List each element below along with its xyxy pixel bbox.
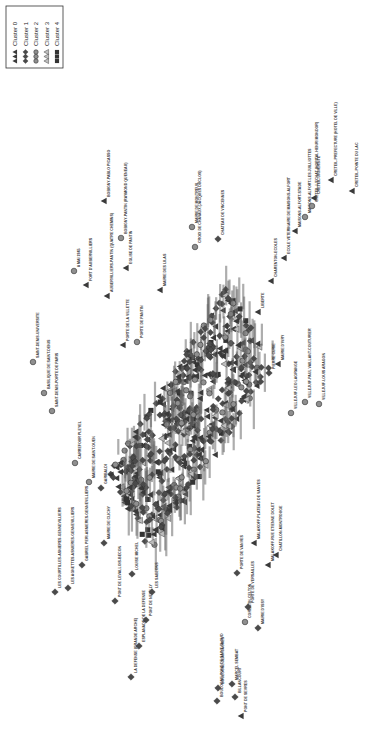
point-label: BOBIGNY-PANTIN (RAYMOND QUENEAU) xyxy=(124,162,128,234)
data-point: MAIRIE D'IVRY xyxy=(275,334,285,367)
circle-icon xyxy=(113,462,118,467)
triangle-icon xyxy=(265,562,271,569)
circle-icon xyxy=(189,224,195,230)
circle-icon xyxy=(49,408,55,414)
point-label: CHATEAU DE VINCENNES xyxy=(221,189,225,235)
triangle-icon xyxy=(251,540,257,547)
triangle-icon xyxy=(104,293,110,300)
circle-icon xyxy=(223,335,228,340)
point-label: CHARENTON-ECOLES xyxy=(274,238,278,277)
triangle-icon xyxy=(268,278,274,285)
circle-icon xyxy=(239,385,244,390)
point-label: PONT DE SEVRES xyxy=(244,680,248,712)
point-label: CROIX DE CHAVAUX (JACQUES DUCLOS) xyxy=(198,170,202,243)
triangle-icon xyxy=(115,484,121,490)
data-point: LES AGNETTES-ASNIERES-GENNEVILLIERS xyxy=(65,506,75,591)
data-point: MAIRIE DE SAINT-OUEN xyxy=(86,436,96,485)
diamond-icon xyxy=(98,485,105,492)
diamond-icon xyxy=(101,540,108,547)
data-point: MALAKOFF-RUE ETIENNE DOLET xyxy=(265,502,275,569)
point-label: CRETEIL-POINTE DU LAC xyxy=(355,142,359,187)
circle-icon xyxy=(30,359,36,365)
data-point: LOUISE MICHEL xyxy=(129,541,139,577)
data-point: CHARENTON-ECOLES xyxy=(268,238,278,285)
point-label: EGLISE DE PANTIN xyxy=(129,230,133,264)
diamond-icon xyxy=(229,681,236,688)
data-point: CRETEIL-POINTE DU LAC xyxy=(349,142,359,194)
triangle-icon xyxy=(328,177,334,184)
square-icon xyxy=(237,306,242,311)
diamond-icon xyxy=(214,698,221,705)
point-label: CARREFOUR PLEYEL xyxy=(78,420,82,459)
circle-icon xyxy=(34,59,38,63)
square-icon xyxy=(140,532,145,537)
square-icon xyxy=(55,59,59,63)
point-label: CHATILLON-MONTROUGE xyxy=(279,505,283,551)
point-label: LES COURTILLES-ASNIERES-GENNEVILLIERS xyxy=(58,507,62,588)
circle-icon xyxy=(124,488,129,493)
data-point: LES SABLONS xyxy=(149,562,159,595)
data-point: MAIRIE DE CLICHY xyxy=(101,505,111,546)
circle-icon xyxy=(231,401,236,406)
circle-icon xyxy=(173,379,178,384)
triangle-icon xyxy=(255,309,261,316)
legend-label: Cluster 1 xyxy=(23,21,29,46)
data-point: BOBIGNY-PANTIN (RAYMOND QUENEAU) xyxy=(118,162,128,241)
data-point: CHATEAU DE VINCENNES xyxy=(215,189,225,242)
data-point: VILLEJUIF-LEO LAGRANGE xyxy=(288,360,298,416)
triangle-icon xyxy=(156,393,162,399)
point-label: 8 MAI 1945 xyxy=(77,248,81,267)
circle-icon xyxy=(243,379,248,384)
data-point: CRETEIL-PREFECTURE (HOTEL DE VILLE) xyxy=(328,102,338,184)
circle-icon xyxy=(203,458,208,463)
point-label: MAIRIE D'ISSY xyxy=(261,598,265,624)
point-label: MAIRIE DES LILAS xyxy=(163,253,167,286)
data-point: PONT DE LEVALLOIS-BECON xyxy=(112,546,122,605)
point-label: MALAKOFF-RUE ETIENNE DOLET xyxy=(271,502,275,561)
circle-icon xyxy=(309,203,315,209)
data-point: GABRIEL PERI-ASNIERES-GENNEVILLIERS xyxy=(79,485,89,568)
circle-icon xyxy=(134,339,140,345)
point-label: VILLEJUIF-LEO LAGRANGE xyxy=(294,360,298,409)
square-icon xyxy=(55,54,59,58)
triangle-icon xyxy=(123,265,129,272)
point-label: ESPLANADE DE LA DEFENSE xyxy=(142,590,146,642)
diamond-icon xyxy=(112,598,119,605)
data-point: PIERRE CURIE xyxy=(266,343,276,376)
point-label: BOBIGNY-PABLO PICASSO xyxy=(107,150,111,197)
circle-icon xyxy=(179,420,184,425)
diamond-icon xyxy=(234,570,241,577)
legend-label: Cluster 4 xyxy=(54,21,60,46)
point-label: CRETEIL-PREFECTURE (HOTEL DE VILLE) xyxy=(334,102,338,176)
point-label: PONT DE LEVALLOIS-BECON xyxy=(118,546,122,597)
diamond-icon xyxy=(129,571,136,578)
triangle-icon xyxy=(83,282,89,289)
point-label: PORTE DE PANTIN xyxy=(140,305,144,338)
data-point: 8 MAI 1945 xyxy=(71,248,81,273)
square-icon xyxy=(190,480,195,485)
point-label: PIERRE CURIE xyxy=(272,343,276,369)
point-label: LOUISE MICHEL xyxy=(135,541,139,570)
data-point: LIBERTE xyxy=(255,292,265,315)
point-label: MALAKOFF-PLATEAU DE VANVES xyxy=(257,479,261,539)
point-label: BASILIQUE DE SAINT-DENIS xyxy=(47,339,51,389)
point-label: PORTE DE VERSAILLES xyxy=(251,560,255,603)
circle-icon xyxy=(71,268,77,274)
diamond-icon xyxy=(232,694,239,701)
data-point: BASILIQUE DE SAINT-DENIS xyxy=(41,339,51,396)
diamond-icon xyxy=(216,333,222,339)
data-point: CARREFOUR PLEYEL xyxy=(72,420,82,466)
circle-icon xyxy=(316,401,322,407)
triangle-icon xyxy=(281,255,287,262)
circle-icon xyxy=(183,388,188,393)
data-point: PORTE DE PANTIN xyxy=(134,305,144,345)
triangle-icon xyxy=(212,451,218,457)
data-point: MAIRIE DES LILAS xyxy=(157,253,167,293)
triangle-icon xyxy=(120,342,126,349)
dense-point-cloud xyxy=(108,266,274,572)
circle-icon xyxy=(242,619,248,625)
triangle-outline-icon xyxy=(159,435,165,441)
triangle-icon xyxy=(292,228,298,235)
data-point: CROIX DE CHAVAUX (JACQUES DUCLOS) xyxy=(192,170,202,250)
diamond-icon xyxy=(156,448,162,454)
